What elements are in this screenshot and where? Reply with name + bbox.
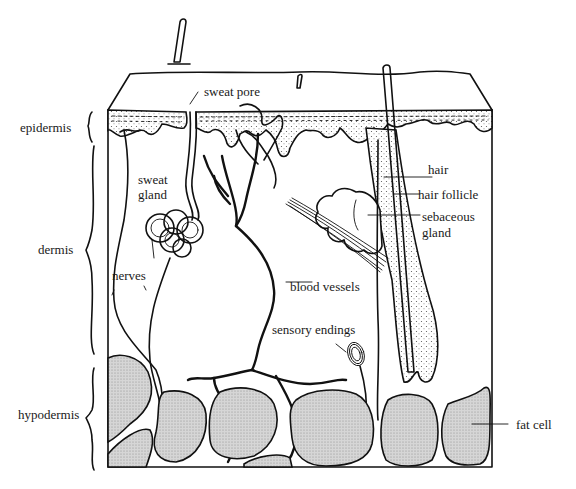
label-sweat-gland-2: gland: [138, 187, 167, 202]
label-blood-vessels: blood vessels: [290, 279, 360, 294]
label-epidermis: epidermis: [20, 120, 71, 135]
label-fat-cell: fat cell: [516, 417, 552, 432]
skin-cross-section-diagram: sweat pore epidermis sweat gland dermis …: [0, 0, 576, 489]
label-dermis: dermis: [38, 242, 73, 257]
layer-braces: [86, 112, 94, 470]
label-hair: hair: [428, 162, 449, 177]
label-hair-follicle: hair follicle: [418, 187, 479, 202]
label-sebaceous-gland-1: sebaceous: [422, 209, 475, 224]
label-sweat-gland-1: sweat: [138, 172, 168, 187]
sweat-gland-coil: [146, 210, 203, 257]
label-sensory-endings: sensory endings: [272, 322, 355, 337]
epidermis-brace: [88, 112, 92, 142]
label-sebaceous-gland-2: gland: [422, 225, 451, 240]
dermis-brace: [86, 146, 94, 354]
epidermis-layer: [108, 110, 492, 157]
label-nerves: nerves: [112, 268, 146, 283]
hypodermis-brace: [86, 368, 94, 470]
label-hypodermis: hypodermis: [18, 407, 79, 422]
label-sweat-pore: sweat pore: [204, 84, 260, 99]
